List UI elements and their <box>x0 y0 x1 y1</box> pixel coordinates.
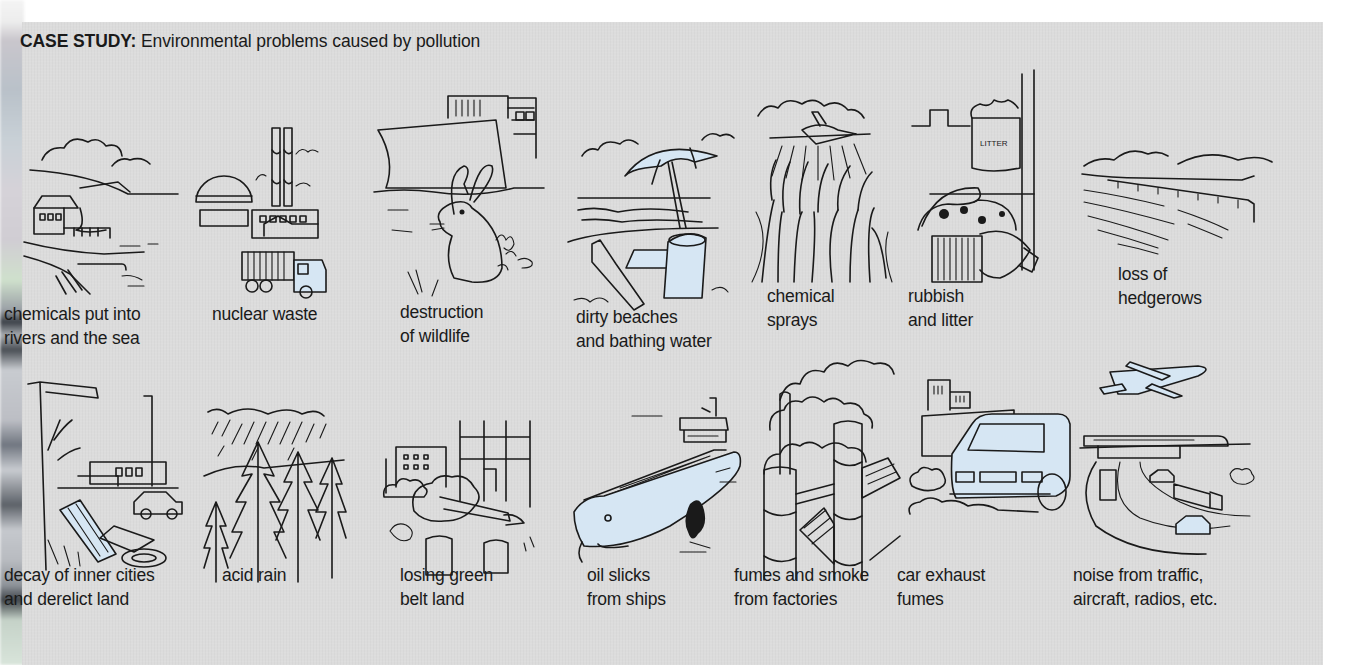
river-factory-pipe-icon <box>24 130 204 300</box>
rain-forest-icon <box>198 402 348 582</box>
label-nuclear-waste: nuclear waste <box>212 302 317 326</box>
open-fields-icon <box>1078 130 1278 260</box>
case-study-panel: CASE STUDY: Environmental problems cause… <box>22 22 1323 665</box>
oil-tanker-icon <box>570 392 750 562</box>
label-dirty-beaches: dirty beachesand bathing water <box>576 305 712 353</box>
plane-train-motorway-icon <box>1080 352 1280 552</box>
label-chemicals-rivers: chemicals put intorivers and the sea <box>4 302 140 350</box>
car-exhaust-smoke-icon <box>902 376 1082 516</box>
beach-umbrella-litter-icon <box>562 120 742 300</box>
nuclear-plant-truck-icon <box>190 110 340 300</box>
label-decay-inner-cities: decay of inner citiesand derelict land <box>4 563 154 611</box>
title-label: CASE STUDY: <box>20 31 136 51</box>
title-text: Environmental problems caused by polluti… <box>136 31 480 51</box>
label-car-exhaust: car exhaustfumes <box>897 563 985 611</box>
crop-duster-plane-icon <box>742 82 902 282</box>
derelict-lot-icon <box>18 370 198 570</box>
label-destruction-wildlife: destructionof wildlife <box>400 300 483 348</box>
label-chemical-sprays: chemicalsprays <box>767 284 834 332</box>
label-loss-hedgerows: loss ofhedgerows <box>1118 262 1202 310</box>
label-acid-rain: acid rain <box>222 563 286 587</box>
label-rubbish-litter: rubbishand litter <box>908 284 973 332</box>
smoking-chimneys-icon <box>760 360 910 580</box>
label-noise-traffic: noise from traffic,aircraft, radios, etc… <box>1073 563 1217 611</box>
page-title: CASE STUDY: Environmental problems cause… <box>20 31 480 52</box>
label-oil-slicks: oil slicksfrom ships <box>587 563 666 611</box>
label-green-belt: losing greenbelt land <box>400 563 493 611</box>
rabbit-bulldozer-icon <box>368 90 558 300</box>
svg-text:LITTER: LITTER <box>980 139 1008 148</box>
overflowing-bin-icon: LITTER <box>902 64 1062 284</box>
felled-trees-construction-icon <box>380 407 550 577</box>
label-fumes-factories: fumes and smokefrom factories <box>734 563 869 611</box>
